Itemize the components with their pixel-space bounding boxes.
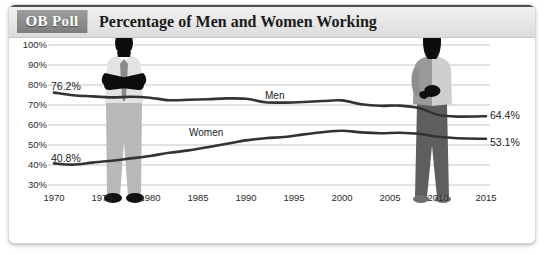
xtick-1990: 1990 [226, 193, 266, 203]
xtick-1995: 1995 [274, 193, 314, 203]
series-label-men: Men [265, 90, 284, 101]
annotation-women-end: 53.1% [490, 137, 520, 148]
xtick-1970: 1970 [34, 193, 74, 203]
xtick-1980: 1980 [130, 193, 170, 203]
header-top-rule [9, 5, 535, 7]
chart-canvas [9, 38, 536, 244]
chart-title: Percentage of Men and Women Working [99, 11, 377, 32]
xtick-2010: 2010 [418, 193, 458, 203]
ytick-70: 70% [13, 100, 47, 110]
ytick-100: 100% [13, 40, 47, 50]
ytick-90: 90% [13, 60, 47, 70]
ytick-80: 80% [13, 80, 47, 90]
plot-area: 100% 90% 80% 70% 60% 50% 40% 30% 1970 19… [9, 38, 535, 244]
ytick-40: 40% [13, 160, 47, 170]
chart-card: OB Poll Percentage of Men and Women Work… [8, 4, 536, 244]
woman-silhouette [411, 38, 452, 203]
man-silhouette [102, 38, 147, 203]
xtick-1975: 1975 [82, 193, 122, 203]
ob-poll-badge-label: OB Poll [25, 13, 78, 30]
xtick-2015: 2015 [466, 193, 506, 203]
xtick-1985: 1985 [178, 193, 218, 203]
series-label-women: Women [189, 127, 223, 138]
ytick-60: 60% [13, 120, 47, 130]
chart-header: OB Poll Percentage of Men and Women Work… [9, 5, 535, 38]
ytick-50: 50% [13, 140, 47, 150]
xtick-2000: 2000 [322, 193, 362, 203]
ob-poll-badge: OB Poll [17, 10, 88, 33]
xtick-2005: 2005 [370, 193, 410, 203]
ytick-30: 30% [13, 180, 47, 190]
annotation-men-end: 64.4% [490, 110, 520, 121]
annotation-men-start: 76.2% [51, 81, 81, 92]
annotation-women-start: 40.8% [51, 153, 81, 164]
